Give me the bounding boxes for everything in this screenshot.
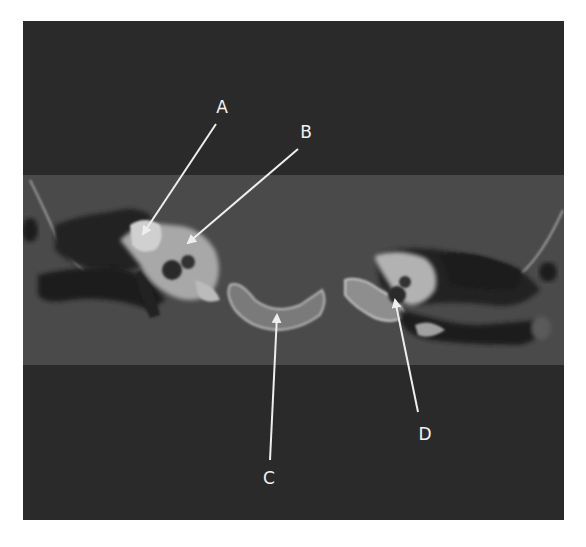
ct-image-panel (23, 21, 564, 520)
right-temporal-bone (345, 248, 557, 345)
label-b: B (300, 124, 312, 141)
arrow-a (143, 124, 216, 234)
arrow-b (188, 149, 298, 243)
left-temporal-bone (38, 209, 220, 318)
label-c: C (263, 470, 275, 487)
label-a: A (216, 99, 228, 116)
arrow-c (270, 315, 277, 460)
left-edge-dark-structure (23, 218, 38, 242)
label-d: D (418, 426, 431, 443)
ct-anatomy (23, 21, 564, 520)
